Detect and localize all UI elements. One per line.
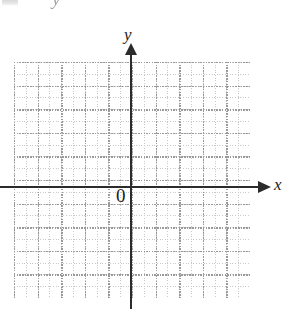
origin-label: 0 [116,186,126,205]
grid-major-lines-horizontal [14,62,250,298]
scan-artifact-glyph: y [52,0,70,7]
x-axis-arrow-icon [258,181,271,193]
y-axis-line [130,52,132,309]
scan-artifact-smudge [2,0,18,6]
y-axis-arrow-icon [125,43,137,55]
coordinate-plane-figure: y x y 0 [0,0,289,309]
graph-paper-grid [14,62,250,298]
x-axis-label: x [274,176,282,193]
y-axis-label: y [124,26,132,43]
